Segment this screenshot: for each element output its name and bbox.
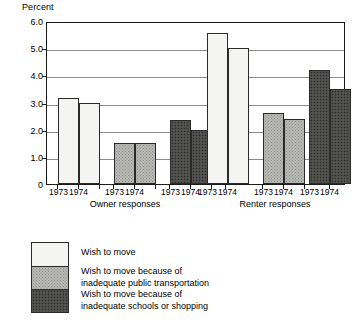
bar-owner-wish-1973 bbox=[58, 98, 79, 184]
x-tick-label-renter-transport-1974: 1974 bbox=[272, 187, 295, 197]
legend-entry-wish-to-move: Wish to move bbox=[81, 247, 136, 259]
legend-label-schools-line2: inadequate schools or shopping bbox=[81, 301, 208, 313]
legend-swatch-stack bbox=[31, 242, 69, 313]
legend-swatch-schools bbox=[32, 289, 68, 312]
legend-label-transportation-line1: Wish to move because of bbox=[81, 266, 182, 276]
x-tick-label-renter-wish-1974: 1974 bbox=[216, 187, 239, 197]
bar-owner-transport-1973 bbox=[114, 143, 135, 184]
legend-entry-transportation: Wish to move because of inadequate publi… bbox=[81, 266, 209, 289]
x-tick-mark-2 bbox=[99, 185, 100, 189]
gridline-5 bbox=[47, 50, 344, 51]
bar-owner-transport-1974 bbox=[135, 143, 156, 184]
legend-label-transportation-line2: inadequate public transportation bbox=[81, 278, 209, 290]
legend-swatch-wish-to-move bbox=[32, 243, 68, 266]
bar-chart-figure: Percent 6.0 5.0 4.0 3.0 2.0 1.0 0 bbox=[0, 0, 360, 323]
x-tick-label-owner-wish-1974: 1974 bbox=[67, 187, 90, 197]
bar-renter-transport-1974 bbox=[284, 119, 305, 184]
legend-entry-schools: Wish to move because of inadequate schoo… bbox=[81, 289, 208, 312]
legend-label-schools-line1: Wish to move because of bbox=[81, 289, 182, 299]
legend-label-wish-to-move-line1: Wish to move bbox=[81, 247, 136, 257]
x-tick-label-renter-schools-1974: 1974 bbox=[318, 187, 341, 197]
bar-owner-wish-1974 bbox=[79, 103, 100, 185]
x-tick-mark-5 bbox=[155, 185, 156, 189]
group-label-owner-responses: Owner responses bbox=[62, 199, 188, 209]
y-tick-label-6: 6.0 bbox=[30, 18, 43, 27]
bar-renter-transport-1973 bbox=[263, 113, 284, 184]
legend-swatch-transportation bbox=[32, 266, 68, 289]
bar-renter-wish-1974 bbox=[228, 48, 249, 184]
group-label-renter-responses: Renter responses bbox=[212, 199, 338, 209]
y-tick-label-0: 0 bbox=[38, 181, 43, 190]
plot-inner bbox=[47, 23, 344, 184]
x-tick-label-owner-transport-1974: 1974 bbox=[123, 187, 146, 197]
gridline-4 bbox=[47, 77, 344, 78]
plot-area bbox=[46, 22, 345, 185]
bar-owner-schools-1973 bbox=[170, 120, 191, 184]
bar-renter-schools-1974 bbox=[330, 89, 351, 184]
bar-renter-schools-1973 bbox=[309, 70, 330, 184]
bar-renter-wish-1973 bbox=[207, 33, 228, 184]
